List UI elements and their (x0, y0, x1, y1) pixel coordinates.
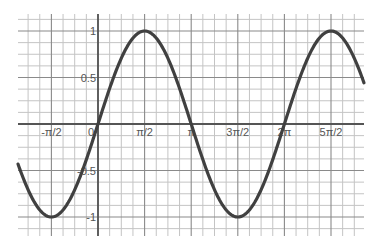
plot-area: -π/20π/2π3π/22π5π/210.5-0.5-1 (0, 0, 376, 245)
y-tick-label: 1 (90, 25, 96, 37)
x-tick-label: -π/2 (41, 126, 61, 138)
x-tick-label: π/2 (136, 126, 153, 138)
x-tick-label: 5π/2 (320, 126, 343, 138)
y-tick-label: 0.5 (81, 72, 96, 84)
y-tick-label: -1 (86, 211, 96, 223)
x-tick-label: 3π/2 (226, 126, 249, 138)
sine-chart: -π/20π/2π3π/22π5π/210.5-0.5-1 (0, 0, 376, 245)
